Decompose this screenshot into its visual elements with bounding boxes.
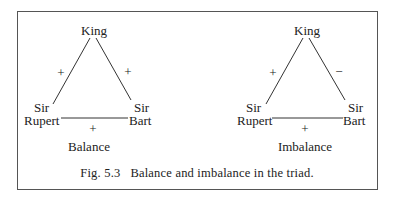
node-king: King bbox=[81, 24, 107, 37]
node-sir-bart-line2: Bart bbox=[129, 114, 151, 127]
figure-caption: Fig. 5.3 Balance and imbalance in the tr… bbox=[80, 167, 313, 180]
edge-sign-king-bart: + bbox=[124, 65, 131, 78]
edge-sign-king-bart: − bbox=[335, 65, 342, 78]
node-sir-rupert-line2: Rupert bbox=[237, 114, 272, 127]
panel-label-imbalance: Imbalance bbox=[278, 140, 332, 153]
edge-sign-rupert-bart: + bbox=[89, 122, 96, 135]
edge-sign-king-rupert: + bbox=[269, 66, 276, 79]
node-sir-bart-line2: Bart bbox=[343, 114, 365, 127]
edge-sign-rupert-bart: + bbox=[301, 122, 308, 135]
node-king: King bbox=[294, 24, 320, 37]
edge-sign-king-rupert: + bbox=[57, 66, 64, 79]
panel-label-balance: Balance bbox=[68, 140, 110, 153]
node-sir-rupert-line2: Rupert bbox=[24, 114, 59, 127]
